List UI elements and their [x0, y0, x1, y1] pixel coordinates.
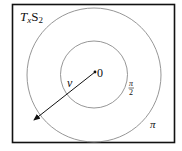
- vector-label: v: [67, 76, 73, 90]
- space-label: TxS2: [20, 9, 43, 25]
- tangent-space-diagram: TxS2 0 v π 2 π: [0, 0, 182, 151]
- outer-circle: [27, 8, 161, 142]
- origin-label: 0: [97, 66, 103, 80]
- inner-radius-denominator: 2: [129, 88, 133, 97]
- inner-circle: [61, 41, 128, 108]
- vector-arrow: [34, 72, 95, 120]
- outer-radius-label: π: [150, 118, 156, 130]
- inner-radius-numerator: π: [129, 79, 134, 88]
